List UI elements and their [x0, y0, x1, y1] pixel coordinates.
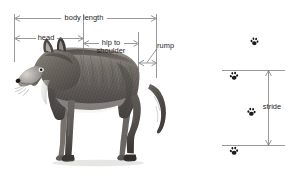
label-hip-to-shoulder: hip to shoulder: [97, 39, 126, 56]
label-hip-to-shoulder-line2: shoulder: [97, 47, 126, 56]
stride-annotations: [0, 0, 291, 180]
paw-print-1: [250, 37, 259, 46]
paw-print-2: [229, 71, 239, 80]
paw-print-4: [229, 147, 239, 156]
wolf-measurement-diagram: body length head hip to shoulder rump st…: [0, 0, 291, 180]
label-rump: rump: [157, 42, 174, 51]
label-head: head: [38, 34, 55, 43]
paw-print-3: [247, 108, 257, 117]
label-stride: stride: [263, 103, 281, 112]
label-body-length: body length: [65, 14, 104, 23]
